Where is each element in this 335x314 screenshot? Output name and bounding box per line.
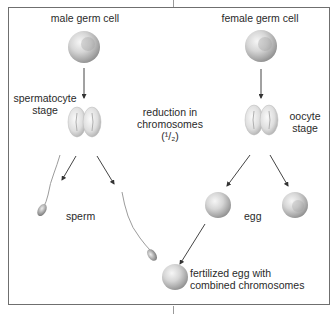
label-spermatocyte-stage: spermatocyte stage: [10, 92, 80, 116]
label-spermatocyte-line1: spermatocyte: [10, 92, 80, 104]
female-germ-cell-icon: [245, 30, 277, 62]
sperm-left-icon: [35, 155, 60, 218]
oocyte-cell-icon: [245, 105, 278, 135]
egg-left-icon: [205, 192, 231, 218]
label-oocyte-line1: oocyte: [280, 110, 330, 122]
sperm-right-icon: [122, 192, 159, 263]
label-reduction-line1: reduction in: [130, 106, 210, 118]
arrow-oocyte-to-egg-left: [227, 155, 250, 186]
label-fertilized-line2: combined chromosomes: [190, 279, 304, 291]
label-male-germ-cell: male germ cell: [35, 12, 135, 24]
label-reduction-line3: (¹/₂): [130, 130, 210, 142]
label-egg: egg: [244, 210, 262, 222]
label-oocyte-line2: stage: [280, 122, 330, 134]
arrow-egg-to-fertilized: [180, 224, 205, 264]
label-oocyte-stage: oocyte stage: [280, 110, 330, 134]
label-fertilized-line1: fertilized egg with: [190, 267, 304, 279]
label-fertilized-egg: fertilized egg with combined chromosomes: [190, 267, 304, 291]
fertilized-egg-icon: [162, 264, 188, 290]
label-sperm: sperm: [66, 210, 95, 222]
label-reduction: reduction in chromosomes (¹/₂): [130, 106, 210, 142]
label-spermatocyte-line2: stage: [10, 104, 80, 116]
arrow-spermatocyte-to-sperm-left: [62, 156, 76, 180]
label-reduction-line2: chromosomes: [130, 118, 210, 130]
arrow-oocyte-to-egg-right: [270, 155, 288, 186]
egg-right-icon: [282, 192, 308, 218]
label-female-germ-cell: female germ cell: [205, 12, 315, 24]
arrow-spermatocyte-to-sperm-right: [97, 156, 114, 184]
male-germ-cell-icon: [68, 31, 100, 63]
